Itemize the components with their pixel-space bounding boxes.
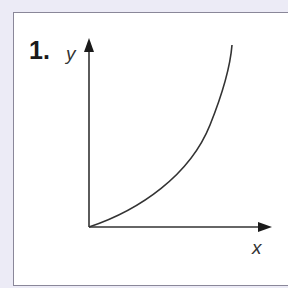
y-axis-arrow-icon [84,38,94,52]
x-axis-arrow-icon [258,222,272,232]
graph [0,0,288,288]
figure-stage: 1. y x [0,0,288,288]
curve [89,45,232,227]
